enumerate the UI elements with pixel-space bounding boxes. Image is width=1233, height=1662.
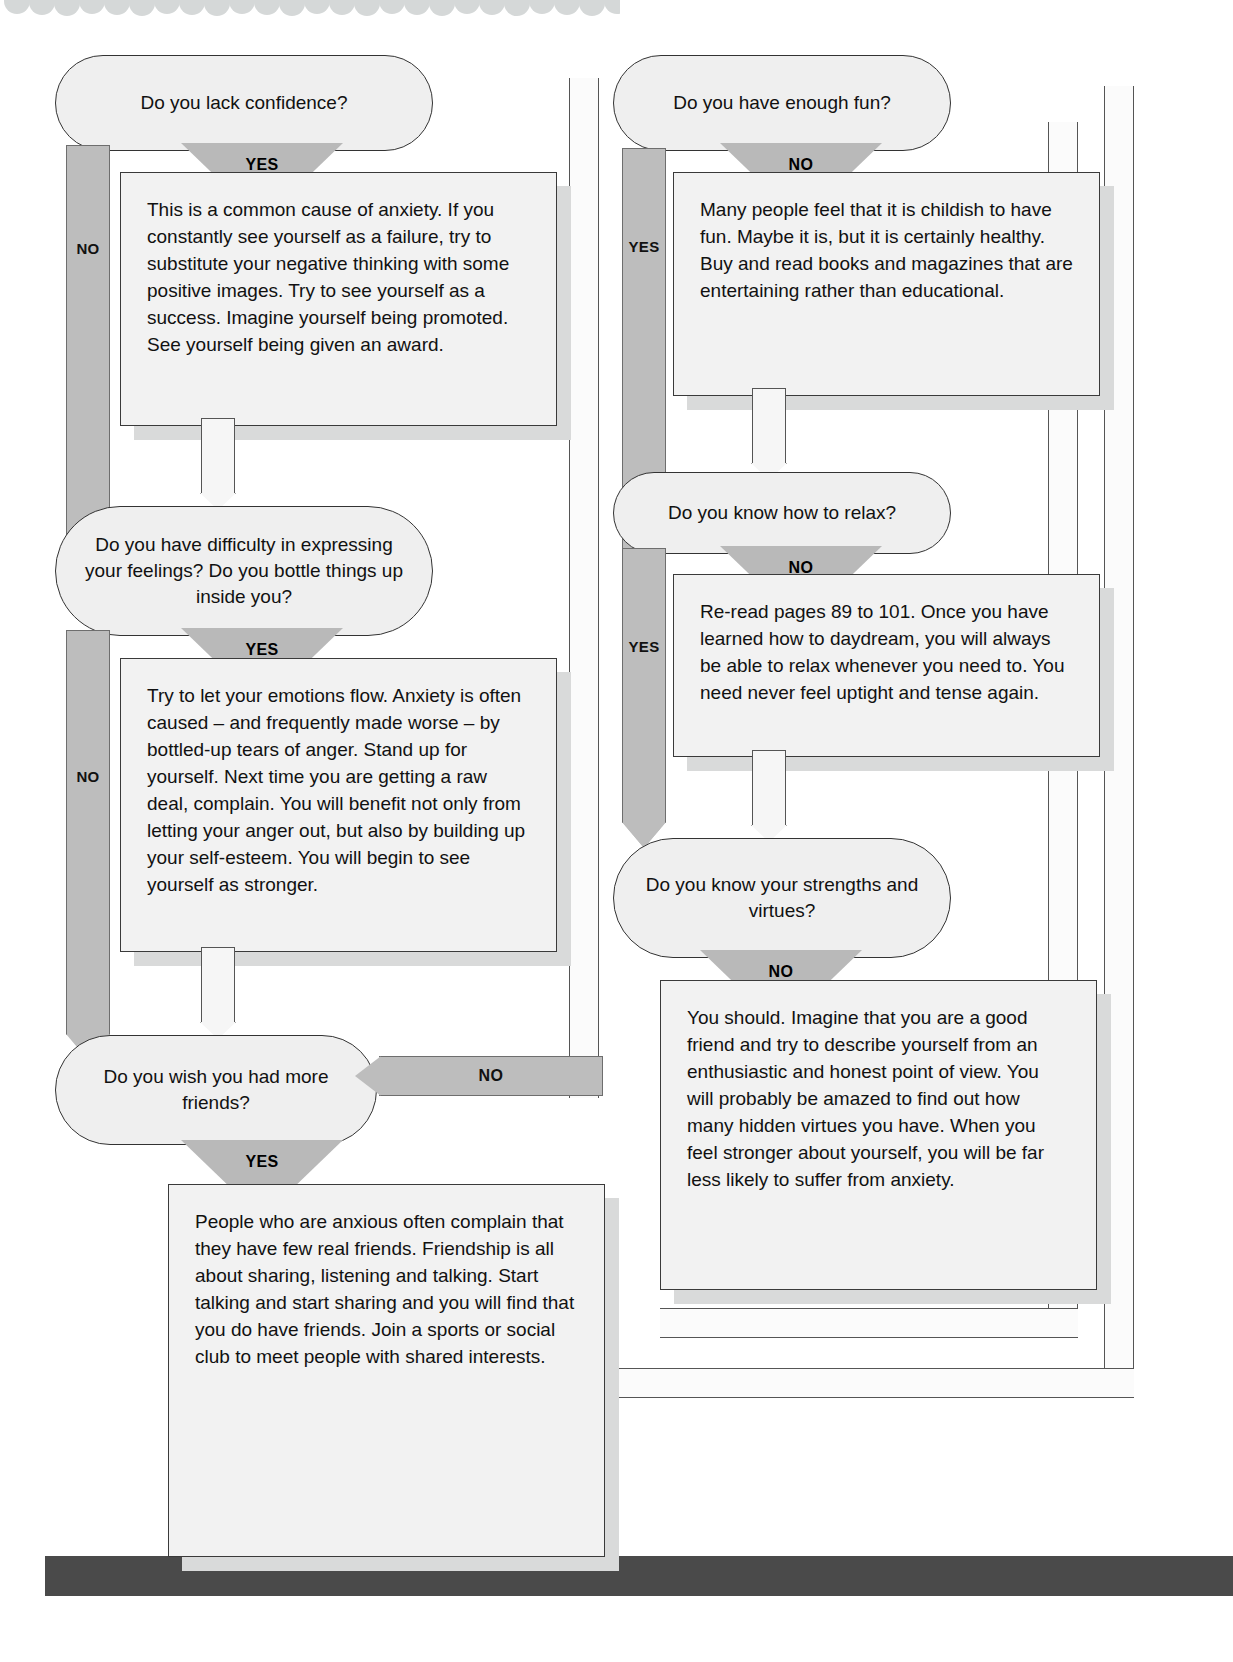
torn-edge-tooth: [79, 0, 105, 14]
arrow-q5-yes: YES: [622, 548, 666, 848]
advice-text: People who are anxious often complain th…: [195, 1211, 574, 1367]
connector-a4-to-q5: [752, 388, 786, 480]
question-enough-fun[interactable]: Do you have enough fun?: [613, 55, 951, 151]
torn-edge-tooth: [329, 0, 355, 15]
torn-edge-tooth: [579, 0, 605, 16]
advice-text: Re-read pages 89 to 101. Once you have l…: [700, 601, 1064, 703]
torn-edge-tooth: [354, 0, 380, 16]
connector-a5-to-q6: [752, 750, 786, 842]
connector-a2-to-q3: [201, 947, 235, 1039]
question-text: Do you wish you had more friends?: [82, 1064, 350, 1116]
torn-edge-tooth: [454, 0, 480, 14]
torn-edge-tooth: [4, 0, 30, 14]
question-strengths-and-virtues[interactable]: Do you know your strengths and virtues?: [613, 838, 951, 958]
advice-know-how-to-relax: Re-read pages 89 to 101. Once you have l…: [673, 574, 1100, 757]
torn-edge-tooth: [154, 0, 180, 14]
question-text: Do you lack confidence?: [140, 90, 347, 116]
arrow-label-no: NO: [391, 1067, 591, 1085]
torn-edge-tooth: [504, 0, 530, 16]
advice-express-feelings: Try to let your emotions flow. Anxiety i…: [120, 658, 557, 952]
connector-right-inner-horizontal: [660, 1308, 1078, 1338]
arrow-label-no: NO: [700, 963, 862, 981]
question-lack-confidence[interactable]: Do you lack confidence?: [55, 55, 433, 151]
arrow-q1-no: NO: [66, 145, 110, 565]
advice-lack-confidence: This is a common cause of anxiety. If yo…: [120, 172, 557, 426]
arrow-q2-no: NO: [66, 630, 110, 1060]
advice-text: Many people feel that it is childish to …: [700, 199, 1073, 301]
torn-edge-tooth: [54, 0, 80, 16]
arrow-label-no: NO: [66, 768, 110, 785]
arrow-label-yes: YES: [622, 638, 666, 655]
arrow-q3-no: NO: [355, 1056, 603, 1096]
advice-text: Try to let your emotions flow. Anxiety i…: [147, 685, 525, 895]
advice-text: This is a common cause of anxiety. If yo…: [147, 199, 509, 355]
question-text: Do you have enough fun?: [673, 90, 891, 116]
question-expressing-feelings[interactable]: Do you have difficulty in expressing you…: [55, 506, 433, 636]
torn-edge-tooth: [304, 0, 330, 14]
torn-edge-tooth: [29, 0, 55, 15]
flowchart-page: Do you lack confidence? NO YES This is a…: [0, 0, 1233, 1662]
torn-edge-tooth: [604, 0, 620, 14]
torn-edge-tooth: [479, 0, 505, 15]
connector-right-outer-horizontal: [569, 1368, 1134, 1398]
advice-strengths-and-virtues: You should. Imagine that you are a good …: [660, 980, 1097, 1290]
torn-edge-tooth: [529, 0, 555, 14]
torn-edge-tooth: [279, 0, 305, 16]
advice-enough-fun: Many people feel that it is childish to …: [673, 172, 1100, 396]
torn-edge-tooth: [429, 0, 455, 16]
torn-edge-tooth: [379, 0, 405, 14]
arrow-label-yes: YES: [181, 641, 343, 659]
torn-edge-tooth: [254, 0, 280, 15]
torn-edge-tooth: [104, 0, 130, 15]
arrow-label-yes: YES: [181, 1153, 343, 1171]
torn-edge-tooth: [179, 0, 205, 15]
question-text: Do you have difficulty in expressing you…: [82, 532, 406, 611]
advice-more-friends: People who are anxious often complain th…: [168, 1184, 605, 1557]
question-text: Do you know how to relax?: [668, 500, 896, 526]
torn-edge-tooth: [229, 0, 255, 14]
torn-edge-tooth: [404, 0, 430, 15]
connector-q3-no-vertical-left: [569, 78, 599, 1098]
torn-edge-tooth: [204, 0, 230, 16]
torn-edge-tooth: [554, 0, 580, 15]
connector-a1-to-q2: [201, 418, 235, 510]
advice-text: You should. Imagine that you are a good …: [687, 1007, 1044, 1190]
question-text: Do you know your strengths and virtues?: [640, 872, 924, 924]
question-know-how-to-relax[interactable]: Do you know how to relax?: [613, 472, 951, 554]
arrow-label-no: NO: [66, 240, 110, 257]
arrow-label-yes: YES: [622, 238, 666, 255]
torn-paper-edge-decoration: [0, 0, 620, 26]
question-more-friends[interactable]: Do you wish you had more friends?: [55, 1035, 377, 1145]
torn-edge-tooth: [129, 0, 155, 16]
